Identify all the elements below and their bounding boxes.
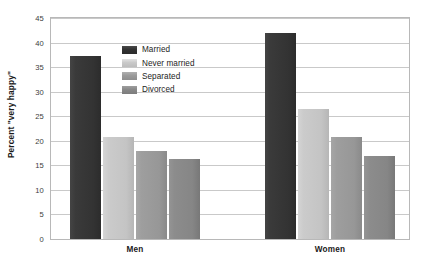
legend-item-label: Married	[142, 45, 170, 54]
bar-men-separated	[136, 151, 167, 239]
y-axis-tick-label: 30	[14, 87, 44, 96]
gridline	[51, 67, 409, 68]
legend-swatch-icon	[122, 46, 137, 54]
y-axis-tick-label: 15	[14, 161, 44, 170]
bar-women-never-married	[298, 109, 329, 239]
x-axis-label-women: Women	[265, 245, 395, 254]
legend-item-divorced: Divorced	[122, 83, 218, 96]
x-axis-label-men: Men	[70, 245, 200, 254]
bar-men-married	[70, 56, 101, 239]
y-axis-tick-label: 40	[14, 38, 44, 47]
gridline	[51, 92, 409, 93]
legend-item-never-married: Never married	[122, 56, 218, 69]
bar-women-married	[265, 33, 296, 239]
legend-item-label: Divorced	[142, 85, 175, 94]
legend-item-label: Separated	[142, 72, 180, 81]
y-axis-tick-label: 25	[14, 112, 44, 121]
gridline	[51, 18, 409, 19]
gridline	[51, 43, 409, 44]
bar-chart: Percent "very happy" 454035302520151050 …	[0, 0, 428, 271]
gridline	[51, 116, 409, 117]
plot-area	[50, 17, 410, 240]
bar-women-separated	[331, 137, 362, 239]
legend: MarriedNever marriedSeparatedDivorced	[122, 43, 218, 97]
legend-swatch-icon	[122, 59, 137, 67]
y-axis-tick-label: 35	[14, 63, 44, 72]
y-axis-tick-label: 0	[14, 235, 44, 244]
y-axis-tick-label: 10	[14, 185, 44, 194]
legend-item-separated: Separated	[122, 70, 218, 83]
bar-men-never-married	[103, 137, 134, 239]
legend-item-label: Never married	[142, 59, 195, 68]
y-axis-tick-label: 45	[14, 14, 44, 23]
legend-swatch-icon	[122, 86, 137, 94]
y-axis-tick-label: 20	[14, 136, 44, 145]
legend-item-married: Married	[122, 43, 218, 56]
legend-swatch-icon	[122, 72, 137, 80]
bar-women-divorced	[364, 156, 395, 239]
y-axis-tick-label: 5	[14, 210, 44, 219]
bar-men-divorced	[169, 159, 200, 239]
